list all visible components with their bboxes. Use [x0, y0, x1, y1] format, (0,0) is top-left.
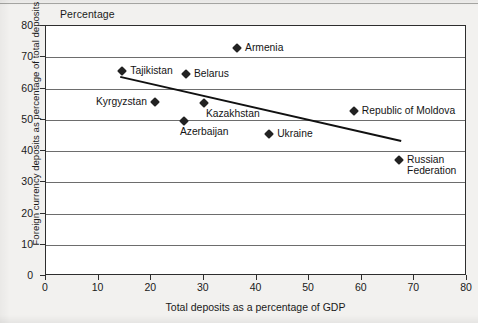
x-tick-mark: [308, 275, 309, 280]
gridline: [46, 89, 465, 90]
gridline: [46, 151, 465, 152]
y-tick-label: 40: [7, 145, 33, 155]
x-tick-label: 80: [451, 282, 478, 293]
data-point-label: Russian Federation: [407, 154, 456, 177]
x-tick-mark: [466, 275, 467, 280]
data-point-marker[interactable]: [394, 155, 404, 165]
data-point-label: Azerbaijan: [180, 126, 229, 138]
y-tick-mark: [40, 213, 45, 214]
y-tick-mark: [40, 88, 45, 89]
x-tick-label: 20: [135, 282, 165, 293]
y-tick-mark: [40, 119, 45, 120]
y-tick-label: 0: [7, 270, 33, 280]
x-tick-label: 10: [83, 282, 113, 293]
plot-area: TajikistanBelarusArmeniaKyrgyzstanKazakh…: [45, 25, 466, 275]
x-tick-label: 40: [241, 282, 271, 293]
y-tick-label: 10: [7, 239, 33, 249]
y-axis-unit-label: Percentage: [60, 8, 115, 20]
data-point-marker[interactable]: [181, 69, 191, 79]
gridline: [46, 182, 465, 183]
y-tick-label: 20: [7, 208, 33, 218]
y-tick-mark: [40, 244, 45, 245]
data-point-label: Kazakhstan: [206, 108, 260, 120]
x-tick-mark: [361, 275, 362, 280]
y-tick-mark: [40, 25, 45, 26]
x-tick-mark: [150, 275, 151, 280]
y-tick-label: 60: [7, 83, 33, 93]
y-tick-mark: [40, 56, 45, 57]
data-point-label: Tajikistan: [130, 65, 172, 77]
x-tick-label: 70: [398, 282, 428, 293]
x-tick-label: 0: [30, 282, 60, 293]
data-point-marker[interactable]: [150, 97, 160, 107]
y-tick-label: 70: [7, 51, 33, 61]
y-tick-label: 50: [7, 114, 33, 124]
x-tick-label: 30: [188, 282, 218, 293]
x-tick-mark: [203, 275, 204, 280]
data-point-label: Ukraine: [277, 128, 312, 140]
gridline: [46, 245, 465, 246]
data-point-label: Republic of Moldova: [362, 105, 455, 117]
x-tick-label: 60: [346, 282, 376, 293]
gridline: [46, 214, 465, 215]
scatter-chart: Percentage Foreign currency deposits as …: [0, 0, 478, 323]
y-tick-label: 30: [7, 176, 33, 186]
data-point-marker[interactable]: [232, 43, 242, 53]
x-tick-mark: [413, 275, 414, 280]
gridline: [46, 120, 465, 121]
y-tick-mark: [40, 150, 45, 151]
gridline: [46, 57, 465, 58]
data-point-marker[interactable]: [349, 106, 359, 116]
x-tick-mark: [98, 275, 99, 280]
x-tick-mark: [45, 275, 46, 280]
data-point-marker[interactable]: [264, 129, 274, 139]
data-point-label: Armenia: [245, 42, 283, 54]
x-tick-label: 50: [293, 282, 323, 293]
x-axis-title: Total deposits as a percentage of GDP: [45, 301, 466, 313]
x-tick-mark: [256, 275, 257, 280]
y-tick-label: 80: [7, 20, 33, 30]
data-point-marker[interactable]: [199, 98, 209, 108]
data-point-marker[interactable]: [179, 116, 189, 126]
data-point-label: Belarus: [194, 68, 229, 80]
data-point-marker[interactable]: [117, 66, 127, 76]
y-tick-mark: [40, 181, 45, 182]
data-point-label: Kyrgyzstan: [96, 96, 147, 108]
